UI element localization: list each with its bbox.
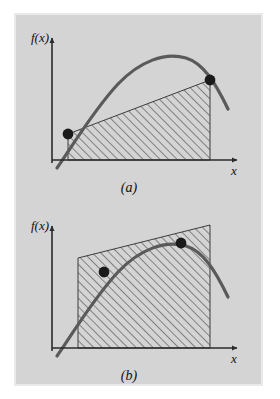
y-axis-label-b: f(x) [31,218,49,233]
marker-right-a [205,75,216,86]
caption-b: (b) [121,368,138,384]
figure-svg: f(x) x (a) f(x) x (b) [0,0,280,399]
caption-a: (a) [121,180,138,196]
marker-left-a [63,129,74,140]
marker-left-b [99,267,110,278]
figure-container: f(x) x (a) f(x) x (b) [0,0,280,399]
x-axis-label-b: x [230,351,237,366]
y-axis-label-a: f(x) [31,30,49,45]
x-axis-label-a: x [230,163,237,178]
marker-right-b [176,238,187,249]
